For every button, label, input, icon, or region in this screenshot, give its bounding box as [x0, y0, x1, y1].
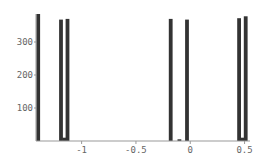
y-ticks: 100200300 — [17, 37, 36, 113]
x-ticks: -1-0.500.5 — [76, 141, 252, 155]
bar — [244, 16, 248, 141]
bar — [66, 19, 70, 141]
bar — [36, 14, 40, 141]
x-tick-label: -1 — [76, 145, 87, 155]
y-tick-label: 300 — [17, 37, 33, 47]
x-tick-label: -0.5 — [125, 145, 147, 155]
bar — [169, 19, 173, 141]
x-tick-label: 0 — [188, 145, 193, 155]
y-tick-label: 100 — [17, 103, 33, 113]
bars-group — [36, 14, 247, 141]
bar — [59, 20, 63, 141]
histogram-chart: -1-0.500.5 100200300 — [0, 0, 258, 157]
x-tick-label: 0.5 — [236, 145, 252, 155]
bar — [237, 18, 241, 141]
y-tick-label: 200 — [17, 70, 33, 80]
bar — [185, 20, 189, 141]
